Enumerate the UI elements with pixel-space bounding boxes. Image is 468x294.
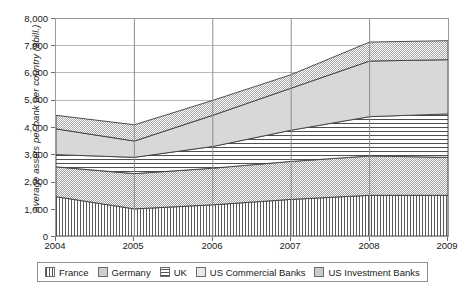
legend-swatch-germany-icon [98, 267, 108, 277]
chart-container: Average assets per bank per country ($bi… [0, 0, 468, 294]
legend-swatch-france-icon [45, 267, 55, 277]
x-tick-mark [369, 237, 370, 241]
legend-item-france[interactable]: France [45, 267, 89, 278]
x-tick-label-2007: 2007 [268, 240, 312, 251]
legend-label-us-commercial-banks: US Commercial Banks [210, 267, 306, 278]
legend-item-us-commercial-banks[interactable]: US Commercial Banks [196, 267, 306, 278]
y-tick-label-1000: 1,000 [0, 204, 48, 215]
legend-label-us-investment-banks: US Investment Banks [328, 267, 419, 278]
y-tick-label-8000: 8,000 [0, 13, 48, 24]
y-tick-label-7000: 7,000 [0, 40, 48, 51]
x-tick-mark [212, 237, 213, 241]
x-tick-mark [447, 237, 448, 241]
legend-swatch-uk-icon [160, 267, 170, 277]
x-tick-label-2005: 2005 [111, 240, 155, 251]
y-tick-label-5000: 5,000 [0, 94, 48, 105]
x-tick-label-2004: 2004 [33, 240, 77, 251]
x-tick-mark [290, 237, 291, 241]
y-tick-label-2000: 2,000 [0, 176, 48, 187]
y-tick-label-3000: 3,000 [0, 149, 48, 160]
legend-item-uk[interactable]: UK [160, 267, 187, 278]
legend-swatch-us-investment-banks-icon [314, 267, 324, 277]
x-tick-label-2009: 2009 [425, 240, 468, 251]
x-tick-label-2008: 2008 [347, 240, 391, 251]
plot-area [55, 18, 449, 237]
legend-label-germany: Germany [112, 267, 151, 278]
y-tick-label-6000: 6,000 [0, 67, 48, 78]
x-tick-label-2006: 2006 [190, 240, 234, 251]
y-tick-label-4000: 4,000 [0, 122, 48, 133]
legend-swatch-us-commercial-banks-icon [196, 267, 206, 277]
legend-item-us-investment-banks[interactable]: US Investment Banks [314, 267, 419, 278]
x-tick-mark [55, 237, 56, 241]
legend-item-germany[interactable]: Germany [98, 267, 151, 278]
chart-legend: France Germany UK US Commercial Banks US… [37, 262, 428, 282]
legend-label-uk: UK [174, 267, 187, 278]
x-tick-mark [133, 237, 134, 241]
legend-label-france: France [59, 267, 89, 278]
x-axis-separators [56, 19, 448, 236]
